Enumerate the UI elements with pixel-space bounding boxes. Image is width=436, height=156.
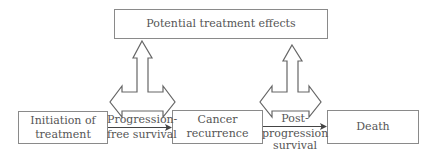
potential-treatment-effects-label: Potential treatment effects — [146, 17, 295, 31]
potential-treatment-effects-box: Potential treatment effects — [114, 9, 328, 39]
effect-arrow-pps-icon — [260, 45, 321, 117]
state-recurrence-line2: recurrence — [187, 127, 249, 141]
state-initiation-line2: treatment — [35, 128, 91, 142]
transition-pps-line3: survival — [262, 140, 328, 153]
transition-pps-line1: Post- — [262, 113, 328, 126]
transition-pfs-line1: Progression- — [107, 114, 173, 127]
state-initiation-line1: Initiation of — [30, 114, 95, 128]
state-recurrence-box: Cancer recurrence — [172, 110, 263, 144]
effect-arrow-pfs-icon — [110, 41, 175, 117]
state-death-box: Death — [327, 110, 419, 144]
state-recurrence-line1: Cancer — [198, 113, 238, 127]
state-initiation-box: Initiation of treatment — [18, 111, 108, 144]
transition-pfs-line2: free survival — [107, 129, 173, 142]
transition-pps-label: Post- progression survival — [262, 113, 328, 153]
state-death-label: Death — [356, 120, 389, 134]
transition-pfs-label: Progression- free survival — [107, 114, 173, 141]
treatment-effects-diagram: Potential treatment effects Initiation o… — [0, 0, 436, 156]
